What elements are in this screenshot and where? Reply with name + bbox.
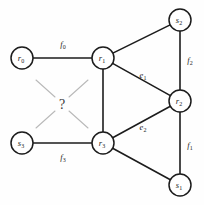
edge-r0-r1-label: f0 — [60, 39, 65, 50]
unknown-ray-3 — [36, 111, 55, 128]
unknown-ray-2 — [69, 80, 88, 97]
unknown-ray-1 — [36, 80, 55, 97]
edge-s2-r2-label: f2 — [187, 55, 192, 66]
graph-diagram: r0r1s3r3s2r2s1 f0f3e1e2f2f1 ? — [0, 0, 204, 205]
edge-r3-r2-label: e2 — [140, 122, 147, 133]
question-mark: ? — [59, 97, 65, 112]
edge-r3-s1 — [113, 148, 171, 179]
edge-r1-s2 — [113, 25, 170, 53]
unknown-ray-4 — [69, 111, 88, 128]
graph-canvas: r0r1s3r3s2r2s1 f0f3e1e2f2f1 ? — [0, 0, 204, 205]
unknown-region-marker: ? — [59, 97, 65, 112]
edge-r1-r2-label: e1 — [140, 70, 147, 81]
edge-r2-s1-label: f1 — [187, 140, 192, 151]
node-layer: r0r1s3r3s2r2s1 — [11, 9, 191, 196]
edge-s3-r3-label: f3 — [60, 152, 65, 163]
